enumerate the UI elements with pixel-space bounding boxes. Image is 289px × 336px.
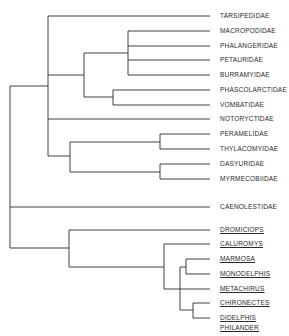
taxon-label-marmosa: MARMOSA	[220, 255, 255, 263]
taxon-label-notoryctidae: NOTORYCTIDAE	[220, 115, 274, 123]
taxon-label-peramelidae: PERAMELIDAE	[220, 130, 268, 138]
taxon-label-macropodidae: MACROPODIDAE	[220, 27, 276, 35]
taxon-label-metachirus: METACHIRUS	[220, 285, 265, 293]
taxon-label-phascolarctidae: PHASCOLARCTIDAE	[220, 86, 287, 94]
taxon-label-monodelphis: MONODELPHIS	[220, 270, 270, 278]
taxon-label-caenolestidae: CAENOLESTIDAE	[220, 203, 277, 211]
taxon-label-phalangeridae: PHALANGERIDAE	[220, 42, 278, 50]
taxon-label-chironectes: CHIRONECTES	[220, 299, 270, 307]
taxon-label-philander: PHILANDER	[220, 324, 259, 332]
taxon-label-tarsipedidae: TARSIPEDIDAE	[220, 12, 270, 20]
taxon-label-dromiciops: DROMICIOPS	[220, 226, 264, 234]
taxon-label-vombatidae: VOMBATIDAE	[220, 101, 264, 109]
taxon-label-dasyuridae: DASYURIDAE	[220, 160, 264, 168]
taxon-label-petauridae: PETAURIDAE	[220, 56, 263, 64]
taxon-label-myrmecobiidae: MYRMECOBIIDAE	[220, 175, 278, 183]
taxon-label-thylacomyidae: THYLACOMYIDAE	[220, 145, 278, 153]
taxon-label-burramyidae: BURRAMYIDAE	[220, 71, 270, 79]
taxon-label-caluromys: CALUROMYS	[220, 240, 263, 248]
taxon-label-didelphis: DIDELPHIS	[220, 314, 256, 322]
